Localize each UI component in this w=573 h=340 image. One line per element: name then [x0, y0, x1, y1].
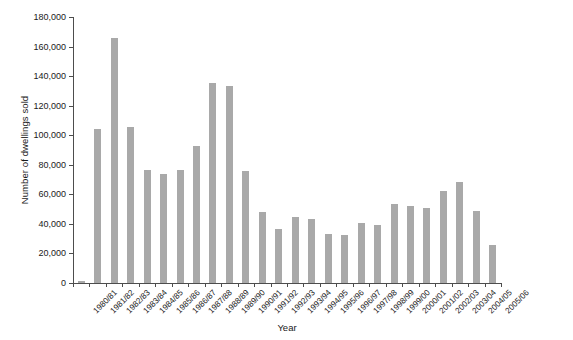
bar	[440, 191, 447, 283]
bar	[275, 229, 282, 283]
bar-chart-figure: Number of dwellings sold 020,00040,00060…	[0, 0, 573, 340]
y-axis-tick: 160,000	[73, 47, 74, 48]
y-axis-tick-label: 60,000	[38, 189, 66, 199]
y-axis-tick-mark	[69, 194, 73, 195]
y-axis-tick-label: 0	[61, 278, 66, 288]
bar	[226, 86, 233, 283]
bar	[489, 245, 496, 283]
bar	[242, 171, 249, 283]
y-axis-tick-mark	[69, 47, 73, 48]
bar	[325, 234, 332, 283]
y-axis-tick-mark	[69, 135, 73, 136]
y-axis-tick: 60,000	[73, 194, 74, 195]
bar	[94, 129, 101, 283]
y-axis-tick-mark	[69, 165, 73, 166]
y-axis-tick-mark	[69, 17, 73, 18]
y-axis-tick-mark	[69, 76, 73, 77]
plot-area: 020,00040,00060,00080,000100,000120,0001…	[73, 17, 501, 283]
y-axis-tick: 80,000	[73, 165, 74, 166]
y-axis-tick-label: 100,000	[33, 130, 66, 140]
bar	[407, 206, 414, 283]
y-axis-line	[73, 17, 74, 283]
bar	[308, 219, 315, 283]
y-axis-title: Number of dwellings sold	[16, 17, 34, 283]
y-axis-tick-label: 120,000	[33, 101, 66, 111]
bar	[193, 146, 200, 283]
bar	[391, 204, 398, 283]
bar	[78, 281, 85, 283]
bar	[473, 211, 480, 283]
y-axis-tick-mark	[69, 253, 73, 254]
bar	[144, 170, 151, 283]
bar	[374, 225, 381, 283]
y-axis-tick: 100,000	[73, 135, 74, 136]
y-axis-tick: 140,000	[73, 76, 74, 77]
y-axis-tick-label: 160,000	[33, 42, 66, 52]
y-axis-tick-label: 40,000	[38, 219, 66, 229]
y-axis-tick: 180,000	[73, 17, 74, 18]
y-axis-tick-mark	[69, 106, 73, 107]
y-axis-tick-label: 180,000	[33, 12, 66, 22]
y-axis-tick-label: 20,000	[38, 248, 66, 258]
bar	[111, 38, 118, 283]
x-axis-tick-mark	[501, 283, 502, 287]
bar	[423, 208, 430, 283]
bar	[358, 223, 365, 283]
bar	[160, 174, 167, 283]
bar	[177, 170, 184, 283]
bar	[456, 182, 463, 283]
y-axis-tick: 120,000	[73, 106, 74, 107]
y-axis-tick-label: 140,000	[33, 71, 66, 81]
bar	[209, 83, 216, 283]
bar	[127, 127, 134, 283]
y-axis-tick: 20,000	[73, 253, 74, 254]
y-axis-tick-label: 80,000	[38, 160, 66, 170]
y-axis-tick-mark	[69, 224, 73, 225]
y-axis-tick: 40,000	[73, 224, 74, 225]
bar	[292, 217, 299, 283]
bar	[341, 235, 348, 283]
bar	[259, 212, 266, 283]
x-axis-title: Year	[73, 322, 501, 333]
